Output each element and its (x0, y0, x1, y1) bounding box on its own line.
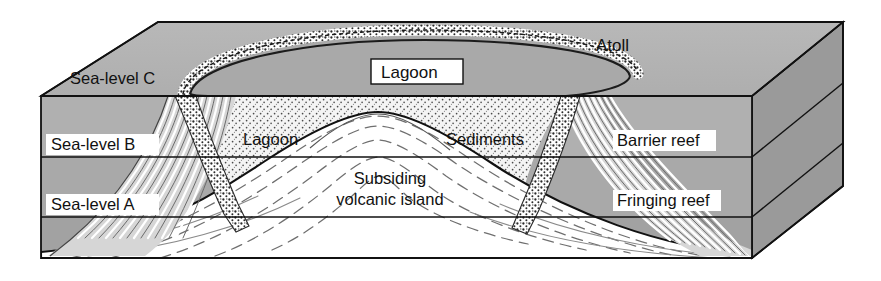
fringing-reef-text: Fringing reef (617, 191, 710, 209)
barrier-reef-text: Barrier reef (617, 131, 700, 149)
atoll-formation-diagram: Sea-level C Sea-level B Sea-level A Lago… (0, 0, 881, 281)
lagoon-top-text: Lagoon (381, 63, 438, 82)
label-sea-level-c: Sea-level C (70, 69, 155, 87)
volcano-label-line2: volcanic island (336, 190, 443, 208)
label-sediments: Sediments (446, 130, 524, 148)
label-sea-level-a: Sea-level A (46, 194, 159, 215)
atoll-text: Atoll (596, 36, 629, 55)
label-fringing-reef: Fringing reef (613, 190, 721, 211)
lagoon-section-text: Lagoon (243, 130, 298, 148)
label-sea-level-b: Sea-level B (46, 134, 159, 155)
figure-root: Sea-level C Sea-level B Sea-level A Lago… (0, 0, 881, 281)
label-lagoon-section: Lagoon (243, 130, 298, 148)
sediments-text: Sediments (446, 130, 524, 148)
volcano-label-line1: Subsiding (354, 169, 426, 187)
sea-level-c-text: Sea-level C (70, 69, 155, 87)
label-barrier-reef: Barrier reef (613, 130, 716, 151)
label-atoll: Atoll (596, 36, 629, 55)
sea-level-a-text: Sea-level A (51, 195, 134, 213)
sea-level-b-text: Sea-level B (51, 135, 135, 153)
label-lagoon-top: Lagoon (371, 59, 463, 84)
